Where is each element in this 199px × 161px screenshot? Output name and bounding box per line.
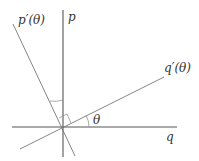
p-prime-label: p′(θ): [18, 13, 45, 27]
q-prime-label: q′(θ): [164, 61, 191, 75]
theta-label: θ: [93, 113, 101, 127]
rotation-diagram: p q p′(θ) q′(θ) θ: [0, 0, 199, 161]
p-label: p: [68, 10, 76, 24]
theta-arc: [86, 115, 89, 127]
right-angle-marker: [59, 114, 71, 123]
p-prime-axis: [13, 24, 75, 156]
q-label: q: [166, 130, 174, 144]
p-angle-arc: [50, 100, 63, 101]
q-prime-axis: [20, 77, 164, 149]
